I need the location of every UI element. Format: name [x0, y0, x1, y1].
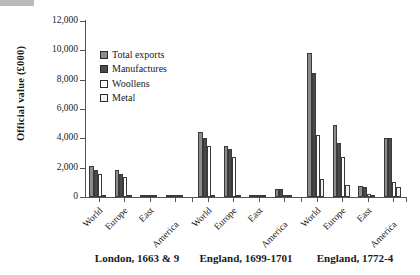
group-caption: England, 1699-1701	[186, 252, 306, 264]
y-axis-tick-label: 10,000	[52, 45, 78, 55]
y-axis-tick-mark	[80, 80, 85, 81]
legend-item: Woollens	[100, 77, 167, 90]
x-axis-tick-mark	[233, 197, 234, 202]
chart-legend: Total exportsManufacturesWoollensMetal	[100, 48, 167, 106]
legend-swatch-icon	[100, 80, 108, 88]
x-axis-tick-mark	[317, 197, 318, 202]
legend-item: Manufactures	[100, 63, 167, 76]
group-caption: London, 1663 & 9	[77, 252, 197, 264]
y-axis-tick-label: 4,000	[57, 133, 78, 143]
x-axis-tick-mark	[150, 197, 151, 202]
y-axis-tick-labels: 12,00010,0008,0006,0004,0002,0000	[0, 0, 78, 275]
x-axis-tick-mark	[368, 197, 369, 202]
bar	[287, 195, 291, 197]
x-axis-tick-mark	[342, 197, 343, 202]
bar	[396, 187, 400, 197]
bar	[211, 195, 215, 197]
group-caption: England, 1772-4	[295, 252, 415, 264]
x-axis-tick-mark	[99, 197, 100, 202]
bar	[207, 146, 211, 197]
y-axis-tick-label: 2,000	[57, 163, 78, 173]
legend-swatch-icon	[100, 94, 108, 102]
legend-item-label: Total exports	[112, 50, 164, 60]
bar	[127, 195, 131, 197]
legend-swatch-icon	[100, 65, 108, 73]
legend-item: Metal	[100, 92, 167, 105]
x-axis-tick-mark	[175, 197, 176, 202]
bar	[320, 179, 324, 197]
group-captions: London, 1663 & 9England, 1699-1701Englan…	[0, 252, 420, 272]
bar	[345, 185, 349, 197]
x-axis-group-boundary-tick	[406, 197, 407, 202]
bar-chart-figure: Official value (£000) 12,00010,0008,0006…	[0, 0, 420, 275]
legend-item-label: Metal	[112, 93, 135, 103]
bar	[153, 195, 157, 197]
x-axis-tick-mark	[259, 197, 260, 202]
bar	[236, 195, 240, 197]
y-axis-tick-label: 6,000	[57, 104, 78, 114]
legend-item-label: Manufactures	[112, 64, 167, 74]
legend-item: Total exports	[100, 48, 167, 61]
bar	[232, 157, 236, 197]
x-axis-tick-mark	[393, 197, 394, 202]
x-axis-group-boundary-tick	[301, 197, 302, 202]
y-axis-tick-mark	[80, 21, 85, 22]
y-axis-tick-mark	[80, 138, 85, 139]
x-axis-tick-mark	[124, 197, 125, 202]
bar	[98, 174, 102, 197]
legend-swatch-icon	[100, 51, 108, 59]
bar	[102, 195, 106, 197]
bar	[262, 195, 266, 197]
y-axis-tick-mark	[80, 50, 85, 51]
y-axis-tick-label: 8,000	[57, 75, 78, 85]
y-axis-tick-mark	[80, 109, 85, 110]
x-axis-tick-mark	[208, 197, 209, 202]
legend-item-label: Woollens	[112, 79, 150, 89]
x-axis-line	[85, 197, 406, 198]
y-axis-tick-label: 0	[73, 192, 78, 202]
y-axis-tick-mark	[80, 197, 85, 198]
x-axis-tick-mark	[284, 197, 285, 202]
x-axis-group-boundary-tick	[192, 197, 193, 202]
y-axis-tick-label: 12,000	[52, 16, 78, 26]
bar	[371, 195, 375, 197]
bar	[123, 177, 127, 197]
bar	[178, 195, 182, 197]
y-axis-tick-mark	[80, 168, 85, 169]
